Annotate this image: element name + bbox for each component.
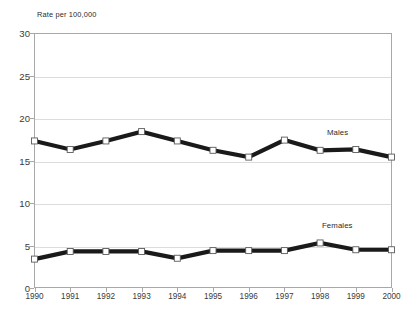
data-point-marker <box>139 248 145 254</box>
x-tick-label: 1993 <box>122 292 162 301</box>
x-tick-label: 1992 <box>86 292 126 301</box>
data-point-marker <box>103 248 109 254</box>
data-point-marker <box>353 247 359 253</box>
x-tick-label: 1997 <box>264 292 304 301</box>
x-tick-label: 1994 <box>157 292 197 301</box>
y-axis-ticks <box>0 33 34 288</box>
data-point-marker <box>389 154 395 160</box>
data-point-marker <box>174 138 180 144</box>
chart-figure: Rate per 100,000 051015202530 Males Fema… <box>0 0 417 315</box>
series-label-males: Males <box>327 128 348 137</box>
data-point-marker <box>389 247 395 253</box>
x-axis-labels: 1990199119921993199419951996199719981999… <box>34 292 392 310</box>
x-tick-label: 1995 <box>193 292 233 301</box>
series-layer <box>34 33 392 288</box>
data-point-marker <box>139 129 145 135</box>
data-point-marker <box>32 256 38 262</box>
data-point-marker <box>317 147 323 153</box>
data-point-marker <box>246 248 252 254</box>
series-label-females: Females <box>322 221 353 230</box>
x-tick-label: 1999 <box>336 292 376 301</box>
data-point-marker <box>246 154 252 160</box>
x-tick-label: 1996 <box>229 292 269 301</box>
data-point-marker <box>67 146 73 152</box>
data-point-marker <box>32 138 38 144</box>
data-point-marker <box>210 248 216 254</box>
data-point-marker <box>317 240 323 246</box>
x-tick-label: 1990 <box>15 292 55 301</box>
x-tick-label: 1998 <box>300 292 340 301</box>
data-point-marker <box>174 255 180 261</box>
data-point-marker <box>103 138 109 144</box>
data-point-marker <box>67 248 73 254</box>
data-point-marker <box>210 147 216 153</box>
x-tick-label: 2000 <box>372 292 412 301</box>
data-point-marker <box>281 248 287 254</box>
data-point-marker <box>353 146 359 152</box>
data-point-marker <box>281 137 287 143</box>
x-tick-label: 1991 <box>50 292 90 301</box>
chart-title: Rate per 100,000 <box>37 10 97 19</box>
